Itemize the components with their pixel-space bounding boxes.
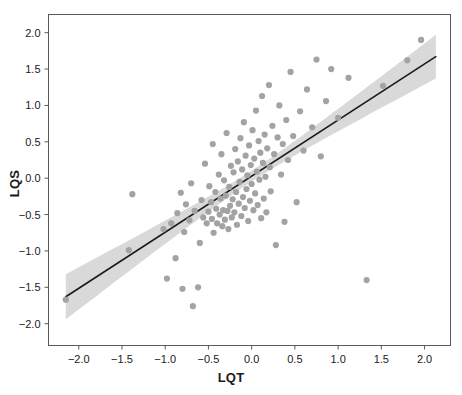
svg-text:1.0: 1.0 [330, 353, 345, 365]
svg-text:−1.0: −1.0 [19, 245, 41, 257]
y-axis-title: LQS [7, 154, 22, 214]
svg-text:2.0: 2.0 [25, 27, 40, 39]
svg-text:−0.5: −0.5 [198, 353, 220, 365]
svg-text:1.5: 1.5 [374, 353, 389, 365]
svg-text:−1.5: −1.5 [111, 353, 133, 365]
y-axis-ticks: −2.0−1.5−1.0−0.50.00.51.01.52.0 [19, 27, 49, 330]
svg-text:1.0: 1.0 [25, 99, 40, 111]
scatter-plot-figure: −2.0−1.5−1.0−0.50.00.51.01.52.0 −2.0−1.5… [0, 0, 462, 395]
svg-text:−2.0: −2.0 [68, 353, 90, 365]
svg-text:0.0: 0.0 [244, 353, 259, 365]
x-axis-title: LQT [0, 370, 462, 385]
x-axis-ticks: −2.0−1.5−1.0−0.50.00.51.01.52.0 [68, 346, 432, 365]
plot-canvas: −2.0−1.5−1.0−0.50.00.51.01.52.0 −2.0−1.5… [0, 0, 462, 395]
svg-text:−2.0: −2.0 [19, 318, 41, 330]
svg-text:−1.5: −1.5 [19, 281, 41, 293]
svg-text:0.0: 0.0 [25, 172, 40, 184]
svg-text:1.5: 1.5 [25, 63, 40, 75]
svg-text:−1.0: −1.0 [154, 353, 176, 365]
svg-text:2.0: 2.0 [417, 353, 432, 365]
svg-text:−0.5: −0.5 [19, 209, 41, 221]
svg-text:0.5: 0.5 [25, 136, 40, 148]
regression-line [66, 57, 436, 297]
svg-text:0.5: 0.5 [287, 353, 302, 365]
